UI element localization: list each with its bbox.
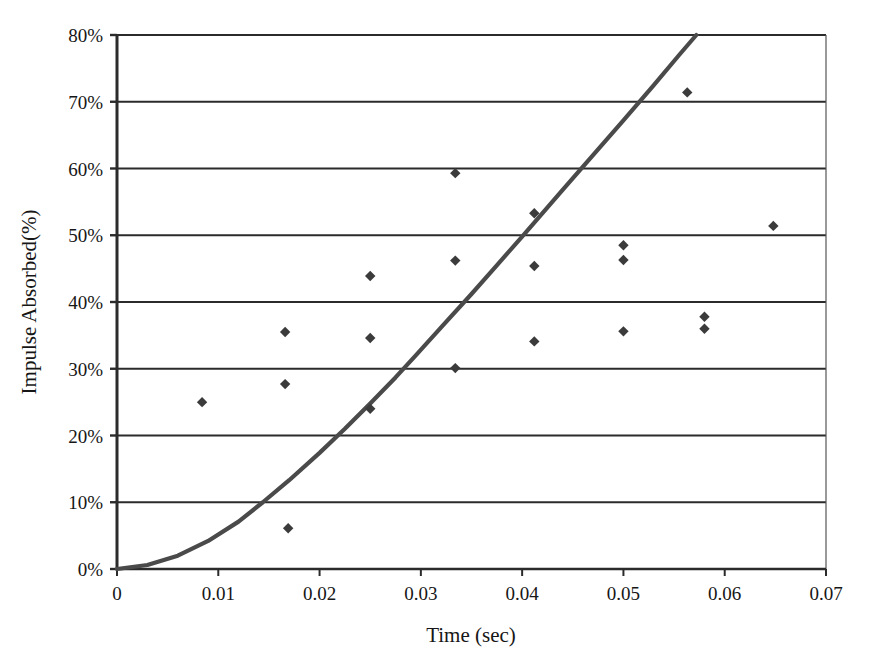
y-axis-tick-labels: 0%10%20%30%40%50%60%70%80% bbox=[68, 25, 103, 580]
y-tick-label-3: 30% bbox=[68, 359, 103, 380]
x-axis-tick-labels: 00.010.020.030.040.050.060.07 bbox=[112, 583, 842, 604]
y-tick-label-8: 80% bbox=[68, 25, 103, 46]
y-tick-label-0: 0% bbox=[78, 559, 104, 580]
x-tick-label-0: 0 bbox=[112, 583, 122, 604]
x-axis-title: Time (sec) bbox=[426, 623, 516, 647]
x-tick-label-3: 0.03 bbox=[404, 583, 437, 604]
x-tick-label-7: 0.07 bbox=[809, 583, 842, 604]
y-tick-label-7: 70% bbox=[68, 92, 103, 113]
y-axis-title: Impulse Absorbed(%) bbox=[17, 210, 41, 395]
x-tick-label-6: 0.06 bbox=[708, 583, 741, 604]
x-tick-label-4: 0.04 bbox=[506, 583, 540, 604]
x-tick-label-1: 0.01 bbox=[202, 583, 235, 604]
x-tick-label-5: 0.05 bbox=[607, 583, 640, 604]
chart-canvas: 00.010.020.030.040.050.060.07 0%10%20%30… bbox=[0, 0, 888, 667]
y-tick-label-6: 60% bbox=[68, 159, 103, 180]
x-tick-label-2: 0.02 bbox=[303, 583, 336, 604]
y-tick-label-4: 40% bbox=[68, 292, 103, 313]
y-tick-label-1: 10% bbox=[68, 492, 103, 513]
y-tick-label-2: 20% bbox=[68, 426, 103, 447]
y-tick-label-5: 50% bbox=[68, 225, 103, 246]
scatter-chart-figure: 00.010.020.030.040.050.060.07 0%10%20%30… bbox=[0, 0, 888, 667]
